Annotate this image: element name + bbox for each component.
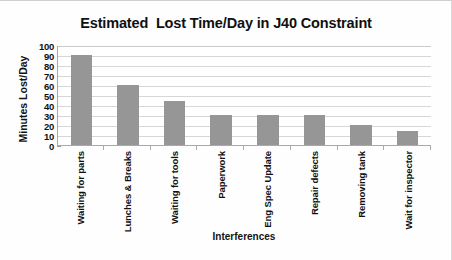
- y-axis-title-text: Minutes Lost/Day: [17, 56, 29, 143]
- bar: [164, 101, 185, 145]
- x-axis-category-label: Removing tank: [355, 151, 366, 218]
- x-axis-tick: [197, 146, 244, 150]
- x-axis-tick: [244, 146, 291, 150]
- bar-chart: Estimated Lost Time/Day in J40 Constrain…: [0, 0, 452, 260]
- x-axis-tick: [338, 146, 385, 150]
- x-axis-label-slot: Eng Spec Update: [244, 151, 291, 223]
- bar: [117, 85, 138, 145]
- y-axis-tick-labels: 1009080706050403020100: [30, 46, 54, 146]
- x-axis-label-slot: Removing tank: [338, 151, 385, 223]
- x-axis-category-label: Repair defects: [309, 151, 320, 215]
- y-axis-tick-label: 80: [44, 62, 54, 71]
- x-axis-label-slot: Paperwork: [197, 151, 244, 223]
- bar-slot: [58, 46, 105, 145]
- bar: [397, 131, 418, 145]
- x-axis-tick: [384, 146, 431, 150]
- x-axis-category-label: Wait for inspector: [402, 151, 413, 230]
- x-axis-tick: [57, 146, 104, 150]
- y-axis-tick-label: 40: [44, 102, 54, 111]
- x-axis-category-label: Lunches & Breaks: [122, 151, 133, 232]
- y-axis-tick-label: 10: [44, 132, 54, 141]
- bar: [210, 115, 231, 145]
- x-axis-label-slot: Waiting for tools: [151, 151, 198, 223]
- bar-slot: [105, 46, 152, 145]
- y-axis-tick-label: 50: [44, 92, 54, 101]
- x-axis-tick-marks: [57, 146, 431, 150]
- bar-slot: [198, 46, 245, 145]
- x-axis-tick: [151, 146, 198, 150]
- x-axis-label-slot: Wait for inspector: [384, 151, 431, 223]
- x-axis-tick: [104, 146, 151, 150]
- x-axis-category-label: Paperwork: [215, 151, 226, 199]
- x-axis-label-slot: Repair defects: [291, 151, 338, 223]
- x-axis-category-label: Waiting for tools: [168, 151, 179, 224]
- y-axis-tick-label: 70: [44, 72, 54, 81]
- x-axis-label-slot: Lunches & Breaks: [104, 151, 151, 223]
- bar: [304, 115, 325, 145]
- bar-slot: [151, 46, 198, 145]
- bars-layer: [58, 46, 431, 145]
- bar-slot: [338, 46, 385, 145]
- x-axis-category-label: Waiting for parts: [75, 151, 86, 224]
- bar: [71, 55, 92, 145]
- y-axis-tick-label: 30: [44, 112, 54, 121]
- y-axis-tick-label: 0: [49, 142, 54, 151]
- x-axis-category-label: Eng Spec Update: [262, 151, 273, 228]
- x-axis-title: Interferences: [57, 231, 431, 242]
- bar-slot: [291, 46, 338, 145]
- y-axis-tick-label: 20: [44, 122, 54, 131]
- plot-area: [57, 46, 431, 146]
- bar: [257, 115, 278, 145]
- x-axis-category-labels: Waiting for partsLunches & BreaksWaiting…: [57, 151, 431, 223]
- bar: [350, 125, 371, 145]
- y-axis-title: Minutes Lost/Day: [16, 49, 30, 149]
- y-axis-tick-label: 60: [44, 82, 54, 91]
- y-axis-tick-label: 100: [39, 42, 54, 51]
- x-axis-label-slot: Waiting for parts: [57, 151, 104, 223]
- y-axis-tick-label: 90: [44, 52, 54, 61]
- bar-slot: [384, 46, 431, 145]
- bar-slot: [245, 46, 292, 145]
- chart-title: Estimated Lost Time/Day in J40 Constrain…: [0, 15, 452, 31]
- x-axis-tick: [291, 146, 338, 150]
